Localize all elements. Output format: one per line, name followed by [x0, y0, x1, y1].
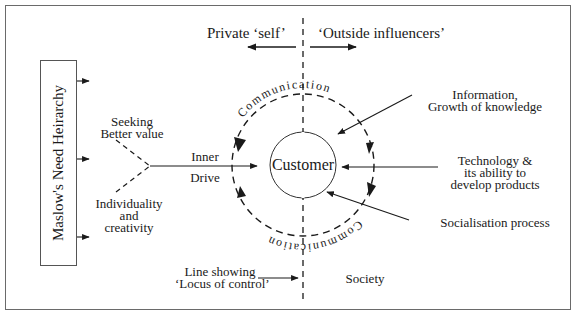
inner-drive-line1: Inner: [183, 150, 227, 163]
information-arrow: [338, 95, 412, 134]
svg-text:Communication: Communication: [234, 77, 333, 120]
ring-label-top: Communication: [234, 77, 333, 120]
individuality-line3: creativity: [88, 221, 170, 234]
locus-line2: ‘Locus of control’: [175, 277, 265, 290]
ring-label-bottom: Communication: [264, 218, 365, 255]
private-self-label: Private ‘self’: [207, 26, 286, 41]
socialisation-arrow: [327, 192, 409, 220]
society-label: Society: [335, 272, 395, 285]
ring-arrow-left-bottom: [237, 186, 246, 198]
maslow-label: Maslow's Need Heirarchy: [50, 85, 67, 241]
individuality-dashed-line: [116, 166, 150, 192]
svg-text:Communication: Communication: [264, 218, 365, 255]
inner-drive-line2: Drive: [183, 171, 227, 184]
technology-line3: develop products: [440, 178, 550, 191]
socialisation-label: Socialisation process: [430, 216, 560, 229]
ring-arrow-right-bottom: [367, 182, 376, 197]
outside-influencers-label: ‘Outside influencers’: [318, 26, 445, 41]
customer-label: Customer: [270, 132, 336, 198]
ring-arrow-left-top: [234, 137, 246, 152]
seeking-dashed-line: [116, 140, 150, 166]
seeking-line2: Better value: [91, 127, 173, 140]
information-line2: Growth of knowledge: [425, 100, 545, 113]
